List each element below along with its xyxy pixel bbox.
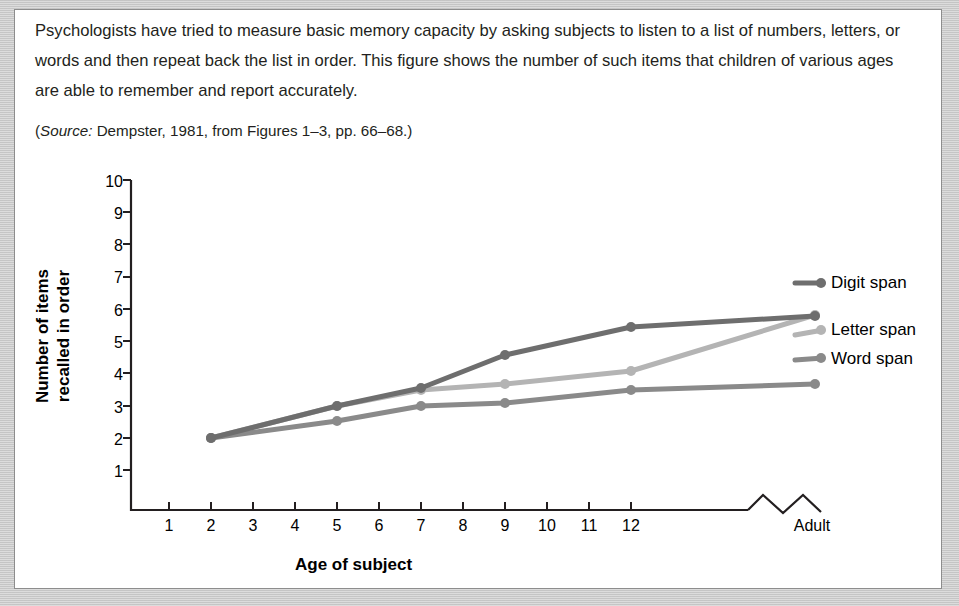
y-tick-marks [123, 180, 131, 470]
source-detail: Dempster, 1981, from Figures 1–3, pp. 66… [92, 122, 412, 139]
series-digit-span-points [206, 311, 820, 443]
series-letter-span [206, 310, 820, 443]
line-chart: Number of items recalled in order 10 9 8… [15, 155, 942, 585]
legend-marker-digit-span [816, 278, 826, 288]
caption-paragraph: Psychologists have tried to measure basi… [35, 16, 919, 106]
figure-root: • Psychologists have tried to measure ba… [0, 0, 959, 606]
source-label: Source: [40, 122, 92, 139]
series-word-span [206, 379, 820, 443]
series-digit-span [206, 311, 820, 443]
plot-svg [15, 155, 942, 585]
legend-marker-word-span [816, 353, 826, 363]
figure-content-card: • Psychologists have tried to measure ba… [14, 9, 942, 589]
source-citation: (Source: Dempster, 1981, from Figures 1–… [35, 122, 412, 139]
axis-break-zigzag [748, 495, 821, 513]
x-tick-marks [169, 502, 631, 510]
legend-marker-letter-span [816, 325, 826, 335]
axis-lines [131, 180, 748, 510]
series-letter-span-points [206, 310, 820, 443]
